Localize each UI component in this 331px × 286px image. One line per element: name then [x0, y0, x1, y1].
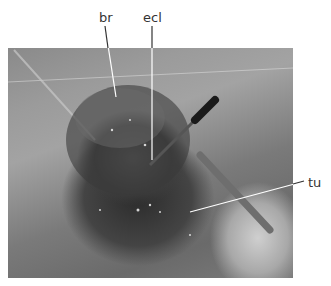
annotation-overlay — [0, 0, 331, 286]
label-ecl: ecl — [143, 11, 162, 24]
label-br: br — [99, 11, 113, 24]
label-tu: tu — [308, 176, 321, 189]
